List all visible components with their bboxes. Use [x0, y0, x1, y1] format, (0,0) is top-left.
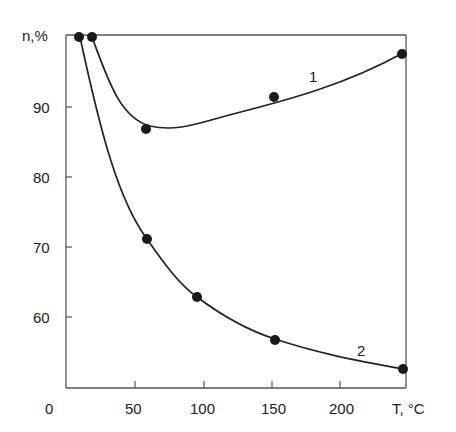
- origin-label: 0: [45, 400, 53, 417]
- plot-frame: [66, 35, 406, 388]
- chart: n,% 90 80 70 60 0 50 100 150 200 T, °C 1…: [0, 0, 456, 432]
- x-tick-label-150: 150: [261, 400, 286, 417]
- data-point: [270, 335, 280, 345]
- curve-2: [80, 37, 403, 369]
- data-point: [398, 364, 408, 374]
- curve-1: [92, 37, 403, 128]
- y-tick-label-70: 70: [33, 239, 50, 256]
- y-ticks: [66, 107, 72, 317]
- y-tick-label-80: 80: [33, 169, 50, 186]
- data-point: [74, 32, 84, 42]
- y-tick-label-60: 60: [33, 309, 50, 326]
- x-tick-label-100: 100: [190, 400, 215, 417]
- x-tick-label-50: 50: [125, 400, 142, 417]
- curve-2-label: 2: [357, 342, 365, 359]
- data-point: [269, 92, 279, 102]
- x-ticks: [135, 381, 340, 388]
- x-tick-label-200: 200: [329, 400, 354, 417]
- series-2-points: [74, 32, 408, 374]
- data-point: [141, 124, 151, 134]
- data-point: [142, 234, 152, 244]
- data-point: [87, 32, 97, 42]
- x-axis-label: T, °C: [392, 400, 425, 417]
- y-axis-label: n,%: [22, 27, 48, 44]
- data-point: [192, 292, 202, 302]
- curve-1-label: 1: [309, 68, 317, 85]
- data-point: [397, 49, 407, 59]
- y-tick-label-90: 90: [33, 99, 50, 116]
